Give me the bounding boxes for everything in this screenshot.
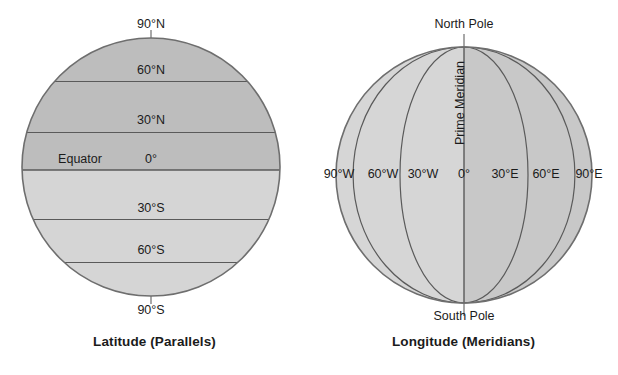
latitude-figure: 90°N 60°N 30°N 0° Equator 30°S 60°S 90°S… <box>0 0 309 375</box>
prime-meridian-label: Prime Meridian <box>454 61 467 145</box>
longitude-figure: North Pole South Pole Prime Meridian 90°… <box>309 0 618 375</box>
latitude-label-90s: 90°S <box>137 304 164 317</box>
southern-hemisphere-fill <box>20 170 284 300</box>
latitude-caption: Latitude (Parallels) <box>0 334 309 349</box>
latitude-label-0: 0° <box>145 153 157 166</box>
north-pole-label: North Pole <box>434 18 493 31</box>
equator-label: Equator <box>58 153 102 166</box>
latitude-label-30n: 30°N <box>137 114 165 127</box>
latitude-label-60n: 60°N <box>137 64 165 77</box>
longitude-label-60w: 60°W <box>368 168 399 181</box>
longitude-label-30w: 30°W <box>408 168 439 181</box>
longitude-caption: Longitude (Meridians) <box>309 334 618 349</box>
latitude-label-60s: 60°S <box>137 244 164 257</box>
longitude-label-60e: 60°E <box>532 168 559 181</box>
northern-hemisphere-fill <box>20 36 284 170</box>
latitude-label-30s: 30°S <box>137 202 164 215</box>
latitude-label-90n: 90°N <box>137 18 165 31</box>
longitude-label-90w: 90°W <box>324 168 355 181</box>
longitude-label-90e: 90°E <box>575 168 602 181</box>
south-pole-label: South Pole <box>433 310 494 323</box>
longitude-label-30e: 30°E <box>491 168 518 181</box>
longitude-label-0: 0° <box>458 168 470 181</box>
longitude-globe-diagram <box>309 0 618 330</box>
